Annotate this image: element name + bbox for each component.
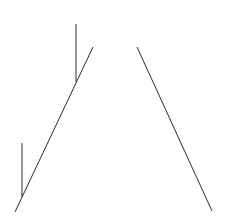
line-drawing-svg bbox=[0, 0, 226, 223]
left-diagonal-line bbox=[15, 47, 93, 212]
right-diagonal-line bbox=[137, 47, 212, 211]
line-drawing-canvas bbox=[0, 0, 226, 223]
